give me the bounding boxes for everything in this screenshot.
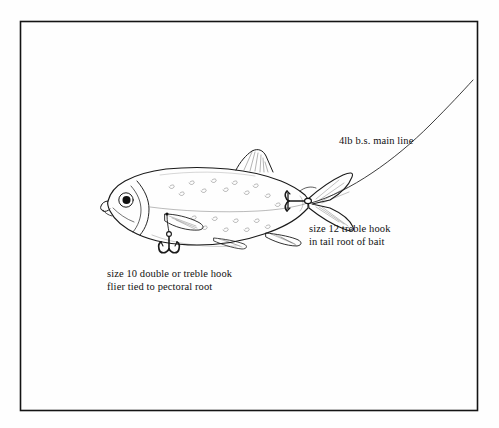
- label-main-line-line1: 4lb b.s. main line: [339, 134, 413, 147]
- lateral-line: [150, 204, 305, 212]
- label-tail-hook-line1: size 12 treble hook: [309, 222, 391, 235]
- double-hook-bend-left: [159, 242, 169, 253]
- treble-hook-tail-eye: [305, 198, 312, 203]
- adipose-fin: [300, 187, 316, 191]
- dorsal-contour-shade: [160, 172, 255, 176]
- illustration-canvas: [0, 0, 499, 428]
- label-main-line: 4lb b.s. main line: [339, 134, 413, 147]
- caudal-peduncle-shade: [300, 196, 303, 211]
- figure-border: [21, 22, 478, 411]
- figure-root: 4lb b.s. main line size 12 treble hook i…: [0, 0, 499, 428]
- fish-eye-pupil: [123, 196, 131, 204]
- label-tail-hook: size 12 treble hook in tail root of bait: [309, 222, 391, 248]
- double-hook-eye: [167, 232, 172, 237]
- gill-cover: [137, 181, 149, 235]
- gill-cover-inner: [131, 186, 141, 232]
- label-flier-hook: size 10 double or treble hook flier tied…: [107, 267, 232, 293]
- label-tail-hook-line2: in tail root of bait: [309, 235, 391, 248]
- label-flier-hook-line2: flier tied to pectoral root: [107, 280, 232, 293]
- pectoral-fin-rays: [169, 216, 197, 229]
- label-flier-hook-line1: size 10 double or treble hook: [107, 267, 232, 280]
- caudal-fin-rays: [316, 180, 349, 226]
